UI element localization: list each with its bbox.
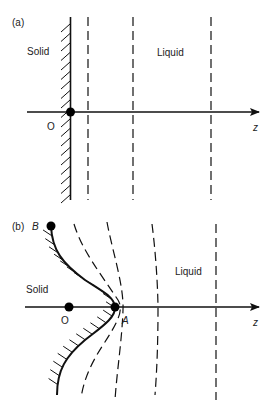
hatch-mark	[50, 370, 59, 376]
hatch-mark	[61, 138, 70, 146]
hatch-mark	[61, 176, 70, 184]
panel-a-solid-label: Solid	[27, 46, 49, 57]
hatch-mark	[61, 91, 70, 99]
diagram: (a) Solid Liquid O z (b) B Solid Liquid	[0, 0, 274, 409]
panel-b-label: (b)	[12, 221, 24, 232]
hatch-mark	[61, 119, 70, 127]
point-b	[47, 222, 56, 231]
point-b-label: B	[32, 221, 39, 232]
hatch-mark	[61, 62, 70, 70]
hatch-mark	[61, 34, 70, 42]
panel-a-origin-label: O	[47, 121, 55, 132]
hatch-mark	[49, 379, 58, 385]
hatch-mark	[61, 100, 70, 108]
panel-b-interface-curve	[51, 226, 115, 395]
hatch-mark	[61, 157, 70, 165]
hatch-mark	[103, 310, 112, 316]
panel-a-liquid-label: Liquid	[157, 47, 184, 58]
hatch-mark	[61, 186, 70, 194]
hatch-mark	[63, 346, 72, 352]
hatch-mark	[76, 334, 85, 340]
panel-b: (b) B Solid Liquid O A z	[12, 221, 259, 400]
panel-a: (a) Solid Liquid O z	[12, 17, 259, 203]
hatch-mark	[61, 72, 70, 80]
hatch-mark	[61, 129, 70, 137]
hatch-mark	[58, 353, 67, 359]
panel-b-origin-label: O	[61, 315, 69, 326]
panel-a-axis-label: z	[252, 122, 258, 133]
hatch-mark	[61, 24, 70, 32]
hatch-mark	[61, 43, 70, 51]
panel-a-origin-point	[66, 108, 75, 117]
hatch-mark	[61, 148, 70, 156]
hatch-mark	[90, 323, 99, 329]
hatch-mark	[61, 195, 70, 203]
hatch-mark	[97, 317, 106, 323]
panel-b-axis-label: z	[252, 317, 258, 328]
hatch-mark	[69, 340, 78, 346]
hatch-mark	[83, 328, 92, 334]
panel-b-liquid-label: Liquid	[175, 266, 202, 277]
point-a-label: A	[121, 315, 129, 326]
panel-a-label: (a)	[12, 17, 24, 28]
hatch-mark	[61, 167, 70, 175]
hatch-mark	[61, 53, 70, 61]
panel-b-origin-point	[65, 303, 74, 312]
hatch-mark	[61, 81, 70, 89]
hatch-mark	[53, 361, 62, 367]
panel-b-isotherm	[152, 224, 158, 395]
hatch-mark	[96, 287, 105, 293]
panel-b-solid-label: Solid	[26, 284, 48, 295]
point-a	[111, 303, 120, 312]
